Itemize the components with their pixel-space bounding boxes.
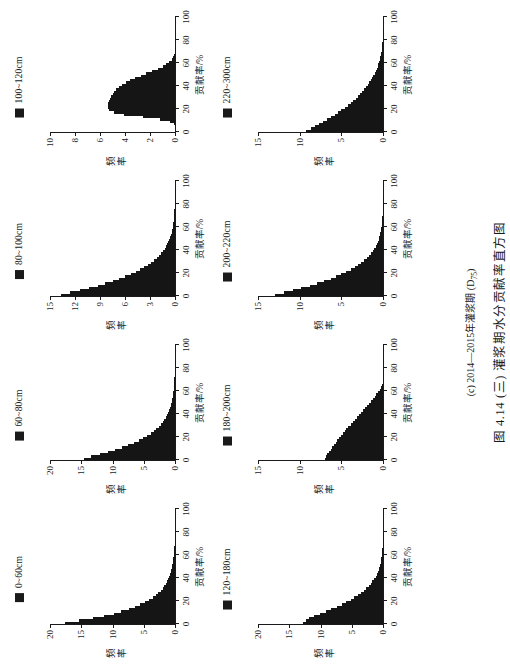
histogram-bar xyxy=(351,599,384,601)
histogram-bar xyxy=(169,409,175,411)
x-tick-mark xyxy=(383,85,387,86)
x-tick-mark xyxy=(383,531,387,532)
histogram-bar xyxy=(331,116,383,118)
histogram-bar xyxy=(381,52,383,54)
histogram-bar xyxy=(151,432,175,434)
y-tick-label: 10 xyxy=(295,138,305,147)
histogram-bar xyxy=(381,560,383,562)
y-tick-mark xyxy=(50,132,51,136)
x-tick-mark xyxy=(175,16,179,17)
x-tick-label: 60 xyxy=(181,59,191,68)
x-tick-label: 0 xyxy=(389,622,399,627)
histogram-bar xyxy=(346,271,383,273)
histogram-bar xyxy=(174,209,175,211)
y-axis-label: 频率 xyxy=(106,155,128,169)
histogram-bar xyxy=(154,430,175,432)
histogram-bar xyxy=(314,615,383,617)
histogram-bar xyxy=(362,91,383,93)
y-tick-label: 5 xyxy=(336,302,346,307)
histogram-bar xyxy=(144,266,175,268)
x-tick-label: 100 xyxy=(389,174,399,188)
y-tick-label: 8 xyxy=(70,138,80,143)
histogram-bar xyxy=(161,423,175,425)
histogram-bar xyxy=(379,236,383,238)
histogram-bar xyxy=(336,275,383,277)
histogram-bar xyxy=(357,416,383,418)
x-tick-mark xyxy=(175,531,179,532)
histogram-bar xyxy=(346,601,383,603)
y-tick-mark xyxy=(341,460,342,464)
histogram-bar xyxy=(331,449,384,451)
x-tick-mark xyxy=(175,131,179,132)
histogram-bar xyxy=(164,419,175,421)
y-tick-mark xyxy=(175,624,176,628)
x-tick-mark xyxy=(383,390,387,391)
histogram-bar xyxy=(317,282,383,284)
histogram-bar xyxy=(122,446,175,448)
y-tick-label: 10 xyxy=(108,466,118,475)
legend-swatch-icon xyxy=(223,109,232,118)
histogram-bar xyxy=(337,606,383,608)
x-tick-label: 40 xyxy=(389,82,399,91)
x-tick-mark xyxy=(383,413,387,414)
x-tick-mark xyxy=(175,459,179,460)
plot-area: 05101520020406080100 xyxy=(50,345,176,461)
histogram-bar xyxy=(371,583,384,585)
y-tick-mark xyxy=(125,296,126,300)
x-tick-label: 20 xyxy=(181,597,191,606)
histogram-bar xyxy=(114,111,175,113)
histogram-bar xyxy=(170,121,175,123)
histogram-bar xyxy=(168,412,175,414)
y-tick-mark xyxy=(258,624,259,628)
y-tick-mark xyxy=(75,296,76,300)
x-axis-label: 贡献率/% xyxy=(192,509,206,625)
histogram-bar xyxy=(108,102,175,104)
y-tick-label: 5 xyxy=(336,138,346,143)
x-tick-mark xyxy=(175,623,179,624)
histogram-bar xyxy=(79,619,175,621)
histogram-bar xyxy=(172,567,175,569)
histogram-panel: 220~300cm051015020406080100贡献率/%频率 xyxy=(218,7,424,167)
histogram-panel: 180~200cm051015020406080100贡献率/%频率 xyxy=(218,335,424,495)
x-tick-label: 0 xyxy=(181,622,191,627)
histogram-panel-grid: 0~60cm05101520020406080100贡献率/%频率60~80cm… xyxy=(10,7,424,659)
y-tick-mark xyxy=(300,460,301,464)
subcaption-pre: (c) 2014—2015年灌浆期 (D xyxy=(465,280,476,397)
histogram-bar xyxy=(319,123,383,125)
histogram-bar xyxy=(377,68,383,70)
x-tick-mark xyxy=(175,39,179,40)
histogram-bar xyxy=(171,405,175,407)
y-tick-mark xyxy=(258,132,259,136)
histogram-bar xyxy=(382,218,383,220)
histogram-bar xyxy=(380,564,383,566)
plot-area: 051015020406080100 xyxy=(258,345,384,461)
x-tick-label: 20 xyxy=(389,433,399,442)
axis-frame: 051015020406080100 xyxy=(258,345,384,461)
histogram-bar xyxy=(174,555,175,557)
x-tick-label: 100 xyxy=(389,338,399,352)
histogram-bar xyxy=(348,426,383,428)
y-tick-label: 15 xyxy=(253,466,263,475)
histogram-bar xyxy=(334,444,383,446)
histogram-bar xyxy=(323,121,383,123)
histogram-bar xyxy=(173,557,175,559)
y-tick-label: 15 xyxy=(253,138,263,147)
histogram-bar xyxy=(172,400,175,402)
panel-legend: 80~100cm xyxy=(14,223,24,279)
histogram-bar xyxy=(382,551,383,553)
y-tick-label: 12 xyxy=(70,302,80,311)
y-axis-label: 频率 xyxy=(314,319,336,333)
x-tick-mark xyxy=(175,295,179,296)
histogram-bar xyxy=(373,250,383,252)
x-tick-mark xyxy=(175,577,179,578)
histogram-bar xyxy=(331,278,384,280)
histogram-bar xyxy=(119,278,175,280)
histogram-bar xyxy=(345,430,383,432)
panel-legend: 220~300cm xyxy=(222,56,232,117)
histogram-bar xyxy=(373,398,383,400)
histogram-bar xyxy=(369,255,383,257)
histogram-bar xyxy=(174,211,175,213)
histogram-bar xyxy=(163,587,176,589)
x-axis-label: 贡献率/% xyxy=(400,17,414,133)
y-tick-mark xyxy=(258,460,259,464)
